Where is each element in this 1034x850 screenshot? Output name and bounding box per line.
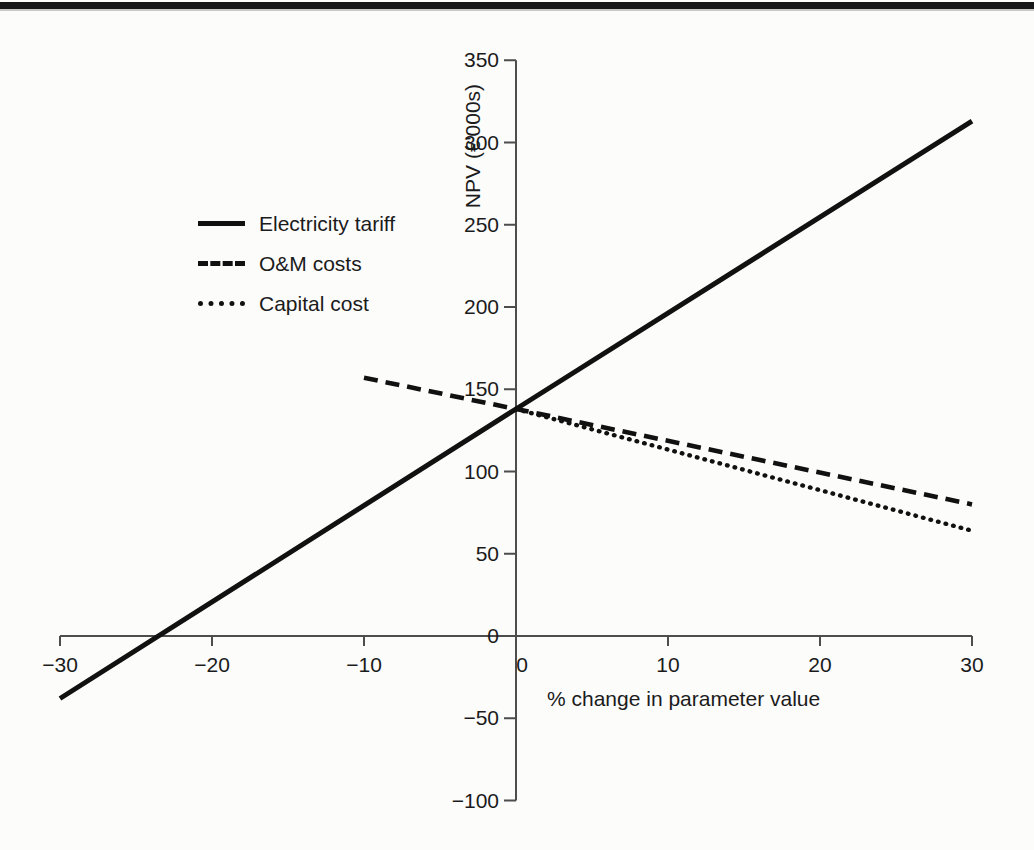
y-tick-label: −100 — [452, 789, 499, 812]
x-tick-label: −20 — [194, 653, 230, 676]
x-tick-label: 30 — [960, 653, 983, 676]
chart-legend: Electricity tariff O&M costs Capital cos… — [198, 203, 395, 323]
series-line-o-m-costs — [364, 378, 972, 505]
y-tick-label: 200 — [464, 295, 499, 318]
y-tick-label: 150 — [464, 377, 499, 400]
legend-label: Electricity tariff — [259, 213, 395, 234]
y-axis-title: NPV (€'000s) — [460, 36, 486, 256]
legend-label: O&M costs — [259, 253, 362, 274]
legend-item-om-costs: O&M costs — [198, 243, 395, 283]
x-tick-label: 10 — [656, 653, 679, 676]
solid-line-sample-icon — [198, 221, 245, 226]
x-tick-label: −10 — [346, 653, 382, 676]
dotted-line-sample-icon — [198, 301, 245, 306]
scanned-page: −30−20−100102030350300250200150100500−50… — [0, 0, 1034, 850]
x-tick-label: 20 — [808, 653, 831, 676]
x-tick-label: −30 — [42, 653, 78, 676]
y-tick-label: 100 — [464, 460, 499, 483]
series-line-capital-cost — [516, 409, 972, 531]
chart-canvas: −30−20−100102030350300250200150100500−50… — [0, 0, 1034, 850]
y-tick-label: −50 — [463, 706, 499, 729]
x-tick-label: 0 — [516, 653, 528, 676]
x-axis-title: % change in parameter value — [547, 687, 820, 711]
y-tick-label: 0 — [487, 624, 499, 647]
y-tick-label: 50 — [476, 542, 499, 565]
legend-item-electricity-tariff: Electricity tariff — [198, 203, 395, 243]
legend-label: Capital cost — [259, 293, 369, 314]
dashed-line-sample-icon — [198, 261, 245, 266]
legend-item-capital-cost: Capital cost — [198, 283, 395, 323]
